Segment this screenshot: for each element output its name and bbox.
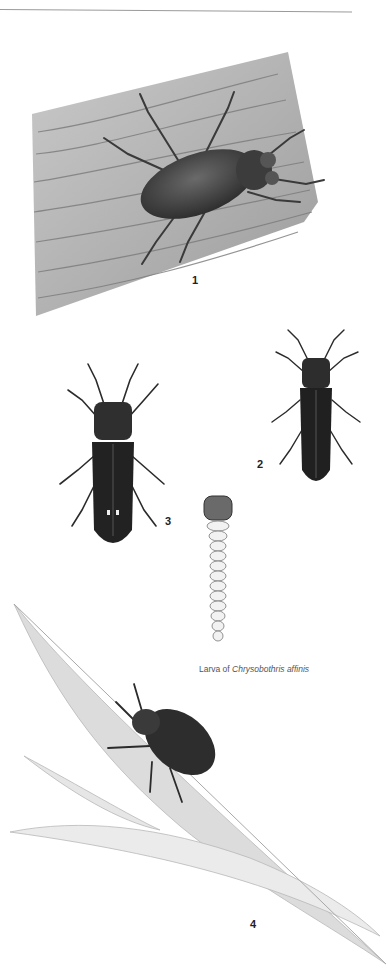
- figure-4-beetle-on-leaf: 4: [0, 596, 388, 971]
- figure-1-beetle-on-bark: 1: [28, 52, 328, 320]
- beetle-2-illustration: [266, 326, 366, 492]
- figure-4-label: 4: [250, 918, 256, 930]
- figure-2-label: 2: [257, 458, 263, 470]
- figure-2-beetle: [266, 326, 366, 492]
- figure-1-label: 1: [192, 274, 198, 286]
- top-rule: [0, 9, 352, 12]
- beetle-3-illustration: [58, 360, 168, 550]
- figure-3-beetle: [58, 360, 168, 550]
- figure-3-label: 3: [165, 515, 171, 527]
- bark-beetle-illustration: [28, 52, 328, 320]
- leaf-beetle-illustration: [0, 596, 388, 971]
